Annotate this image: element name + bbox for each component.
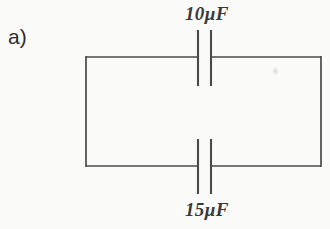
part-label: a)	[8, 25, 27, 49]
capacitor-top-label: 10µF	[185, 3, 229, 25]
figure-canvas: a) 10µF 15µF	[0, 0, 330, 229]
circuit-diagram	[0, 0, 330, 229]
capacitor-bottom-label: 15µF	[185, 199, 229, 221]
